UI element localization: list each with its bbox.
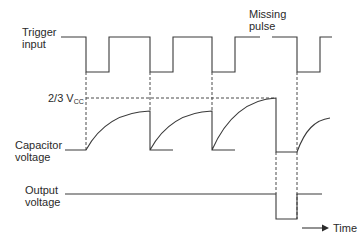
threshold-label: 2/3 VCC bbox=[48, 92, 84, 108]
output-voltage-label: Output voltage bbox=[25, 184, 60, 208]
missing-label-line2: pulse bbox=[249, 20, 286, 32]
capacitor-voltage-waveform bbox=[65, 98, 330, 152]
capacitor-label-line2: voltage bbox=[15, 151, 62, 163]
time-arrow-head bbox=[322, 225, 329, 232]
time-axis-label: Time bbox=[333, 222, 357, 234]
missing-label-line1: Missing bbox=[249, 8, 286, 20]
trigger-label-line2: input bbox=[22, 38, 56, 50]
trigger-input-label: Trigger input bbox=[22, 26, 56, 50]
output-label-line1: Output bbox=[25, 184, 60, 196]
missing-pulse-label: Missing pulse bbox=[249, 8, 286, 32]
output-label-line2: voltage bbox=[25, 196, 60, 208]
trigger-input-waveform bbox=[61, 37, 332, 72]
threshold-label-main: 2/3 V bbox=[48, 92, 74, 104]
output-voltage-waveform bbox=[65, 194, 322, 219]
threshold-label-subscript: CC bbox=[74, 98, 84, 105]
trigger-label-line1: Trigger bbox=[22, 26, 56, 38]
capacitor-label-line1: Capacitor bbox=[15, 139, 62, 151]
capacitor-voltage-label: Capacitor voltage bbox=[15, 139, 62, 163]
